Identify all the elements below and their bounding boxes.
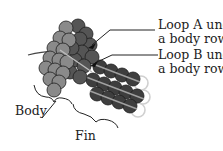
loop-b-label-line2: a body row <box>158 62 223 76</box>
fin-brace <box>73 104 118 128</box>
body-light-loops <box>39 21 76 97</box>
leader-lines <box>92 30 158 63</box>
loop-a-label-line1: Loop A under <box>158 18 223 32</box>
loop-a-label-line2: a body row <box>158 32 223 46</box>
loop-b-label-line1: Loop B under <box>158 48 223 62</box>
knit-structure-diagram: Loop A under a body row Loop B under a b… <box>0 0 223 151</box>
fin-label: Fin <box>75 129 96 143</box>
body-label: Body <box>15 104 47 118</box>
